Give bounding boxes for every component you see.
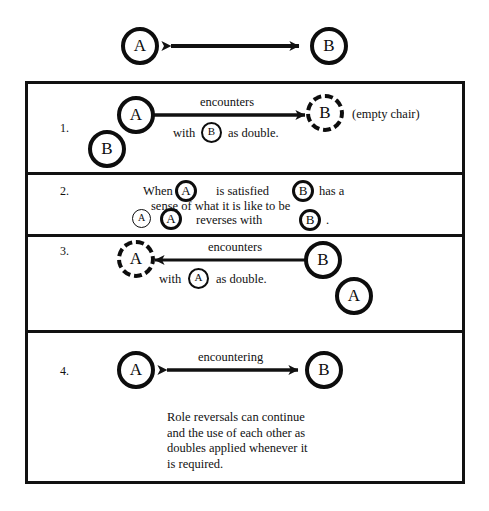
header-double-arrow-icon [159,36,311,56]
row-2-inline-circle-a-1-label: A [181,184,190,197]
row-1-circle-b-actor-label: B [101,140,112,157]
row-2-inline-circle-a-2-label: A [138,213,145,223]
row-divider-3 [25,330,465,333]
row-3-inline-circle-a-label: A [195,272,203,283]
row-1-empty-chair-note: (empty chair) [352,107,420,122]
row-3-circle-b-label: B [317,251,328,268]
row-1-number: 1. [60,121,69,136]
row-3-circle-b: B [304,241,342,279]
row-4-circle-a-label: A [130,361,142,378]
row-3-circle-a-actor-label: A [348,287,360,304]
row-1-as-double-label: as double. [228,126,279,141]
row-2-inline-circle-b-1: B [292,180,314,202]
row-4-paragraph: Role reversals can continue and the use … [167,410,397,472]
row-3-as-double-label: as double. [216,272,267,287]
row-2-period: . [326,213,329,228]
header-circle-a: A [121,27,159,65]
row-2-sense-line: sense of what it is like to be [151,199,290,214]
row-3-dashed-circle-a: A [117,240,155,278]
diagram-canvas: A B 1. A B encounters w [0,0,489,511]
row-1-arrow-label: encounters [200,95,254,110]
row-2-is-satisfied-label: is satisfied [216,184,269,199]
row-2-when-label: When [143,184,173,199]
row-1-dashed-circle-b: B [306,94,344,132]
row-1-inline-circle-b-label: B [208,126,215,137]
row-3-with-label: with [159,272,181,287]
header-circle-b-label: B [323,37,334,54]
row-divider-1 [25,172,465,175]
row-3-inline-circle-a: A [188,268,209,289]
row-4-circle-b-label: B [318,361,329,378]
row-4-arrow-label: encountering [198,350,263,365]
row-1-dashed-circle-b-label: B [319,104,330,121]
row-2-has-a-label: has a [319,184,344,199]
row-1-with-label: with [173,126,195,141]
row-2-inline-circle-b-2: B [299,209,321,231]
row-2-number: 2. [60,184,69,199]
row-1-circle-a: A [117,96,155,134]
row-1-inline-circle-b: B [201,122,222,143]
row-1-circle-a-label: A [130,106,142,123]
row-4-circle-a: A [117,351,155,389]
row-4-number: 4. [60,364,69,379]
row-1-circle-b-actor: B [88,130,126,168]
row-3-arrow-label: encounters [208,240,262,255]
row-2-inline-circle-b-1-label: B [299,184,308,197]
row-2-reverses-with-label: reverses with [196,213,262,228]
row-3-circle-a-actor: A [335,277,373,315]
row-4-circle-b: B [305,351,343,389]
row-3-dashed-circle-a-label: A [130,250,142,267]
row-2-inline-circle-a-2: A [132,209,151,228]
row-3-number: 3. [60,244,69,259]
header-circle-a-label: A [134,37,146,54]
header-circle-b: B [310,27,348,65]
row-divider-2 [25,234,465,237]
row-2-inline-circle-b-2-label: B [306,213,315,226]
